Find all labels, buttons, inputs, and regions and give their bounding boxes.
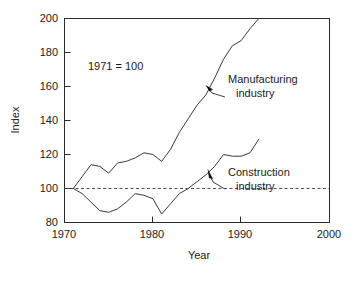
manufacturing-arrowhead-icon [206,85,214,92]
manufacturing-annotation: Manufacturing industry [206,73,298,99]
construction-label-line2: industry [236,180,275,192]
x-tick-label-2000: 2000 [317,228,341,240]
x-axis-title: Year [188,249,211,261]
y-tick-label-200: 200 [40,12,58,24]
chart-figure: 200 180 160 140 120 100 80 1970 1980 199… [0,0,355,284]
y-tick-label-140: 140 [40,114,58,126]
series-line-manufacturing [65,19,259,189]
construction-leader-line [213,182,225,189]
y-axis-tick-labels: 200 180 160 140 120 100 80 [40,12,58,228]
y-axis-ticks [65,19,71,223]
y-tick-label-180: 180 [40,46,58,58]
x-tick-label-1980: 1980 [140,228,164,240]
manufacturing-leader-line [212,93,225,97]
plot-frame [65,19,330,223]
line-chart: 200 180 160 140 120 100 80 1970 1980 199… [0,0,355,284]
y-tick-label-120: 120 [40,148,58,160]
x-tick-label-1970: 1970 [52,228,76,240]
manufacturing-label-line2: industry [236,87,275,99]
y-tick-label-160: 160 [40,80,58,92]
x-axis-ticks [153,217,241,223]
x-tick-label-1990: 1990 [228,228,252,240]
y-axis-title: Index [9,106,21,133]
manufacturing-label-line1: Manufacturing [228,73,298,85]
y-tick-label-80: 80 [46,216,58,228]
y-tick-label-100: 100 [40,182,58,194]
x-axis-tick-labels: 1970 1980 1990 2000 [52,228,341,240]
construction-label-line1: Construction [228,166,290,178]
baseline-note: 1971 = 100 [88,60,143,72]
